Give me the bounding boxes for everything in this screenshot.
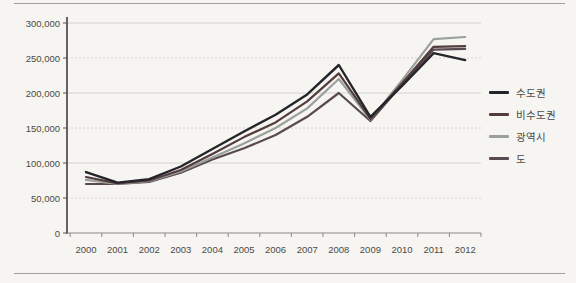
- series-line-province: [86, 49, 465, 184]
- x-axis-label: 2004: [202, 244, 223, 255]
- legend-label-province: 도: [516, 151, 526, 166]
- x-axis-label: 2011: [423, 244, 443, 255]
- x-axis-label: 2005: [233, 244, 254, 255]
- x-axis-label: 2001: [107, 244, 128, 255]
- x-axis-label: 2009: [360, 244, 381, 255]
- x-axis-label: 2006: [265, 244, 286, 255]
- scanned-chart-page: 050,000100,000150,000200,000250,000300,0…: [0, 0, 576, 283]
- legend-swatch-capital-region: [489, 91, 509, 94]
- legend-swatch-metropolitan-city: [489, 135, 509, 138]
- legend-label-non-capital-region: 비수도권: [516, 107, 556, 122]
- x-axis-label: 2012: [455, 244, 476, 255]
- x-axis-label: 2010: [391, 244, 412, 255]
- legend-item-capital-region: 수도권: [489, 86, 556, 99]
- y-axis-label: 300,000: [26, 18, 60, 29]
- y-axis-label: 250,000: [26, 53, 60, 64]
- legend-label-capital-region: 수도권: [516, 85, 546, 100]
- x-axis-label: 2003: [170, 244, 191, 255]
- series-line-metropolitan-city: [86, 37, 465, 184]
- y-axis-label: 200,000: [26, 88, 60, 99]
- y-axis-label: 0: [55, 228, 60, 239]
- legend-item-non-capital-region: 비수도권: [489, 108, 556, 121]
- legend-swatch-province: [489, 157, 509, 160]
- x-axis-label: 2000: [75, 244, 96, 255]
- x-axis-label: 2007: [297, 244, 318, 255]
- y-axis-label: 150,000: [26, 123, 60, 134]
- legend-label-metropolitan-city: 광역시: [516, 129, 546, 144]
- y-axis-label: 50,000: [31, 193, 60, 204]
- bottom-divider-rule: [14, 273, 565, 274]
- x-axis-label: 2002: [139, 244, 160, 255]
- x-axis-label: 2008: [328, 244, 349, 255]
- legend-item-metropolitan-city: 광역시: [489, 130, 556, 143]
- legend-swatch-non-capital-region: [489, 113, 509, 116]
- legend-item-province: 도: [489, 152, 556, 165]
- chart-legend: 수도권비수도권광역시도: [489, 86, 556, 165]
- y-axis-label: 100,000: [26, 158, 60, 169]
